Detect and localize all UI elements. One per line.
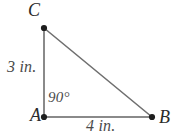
vertex-dot-a bbox=[41, 114, 47, 120]
side-length-label-ab: 4 in. bbox=[86, 118, 115, 134]
vertex-dot-b bbox=[149, 114, 155, 120]
vertex-label-c: C bbox=[28, 1, 40, 19]
vertex-label-b: B bbox=[159, 108, 170, 126]
side-length-label-ac: 3 in. bbox=[7, 59, 36, 75]
vertex-label-a: A bbox=[30, 106, 41, 124]
vertex-dot-c bbox=[41, 25, 47, 31]
angle-measure-label-a: 90° bbox=[48, 90, 70, 105]
geometry-figure: C A B 3 in. 4 in. 90° bbox=[0, 0, 176, 137]
